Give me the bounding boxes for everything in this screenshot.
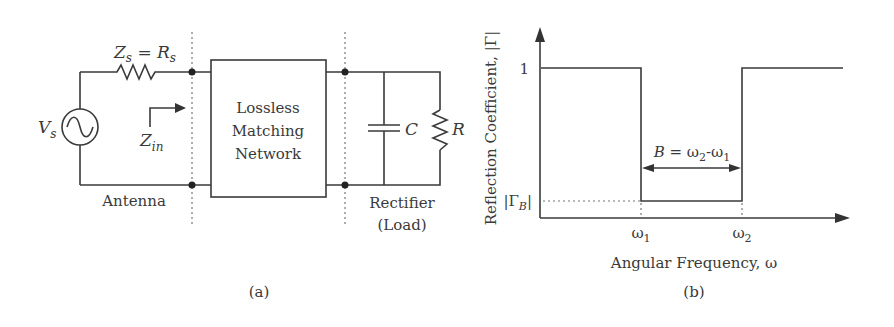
node-dot — [189, 182, 196, 189]
block-label-line3: Network — [235, 145, 302, 163]
node-dot — [342, 182, 349, 189]
zin-arrow-line — [150, 108, 178, 127]
capacitor-label: C — [405, 119, 418, 139]
load-resistor-icon — [433, 110, 447, 150]
bandwidth-label: B = ω2-ω1 — [653, 143, 731, 164]
load-resistor-label: R — [451, 119, 465, 139]
arrowhead-left-icon — [642, 164, 654, 172]
sine-wave-icon — [67, 117, 93, 137]
capacitor-icon — [368, 72, 400, 185]
rectifier-label-line2: (Load) — [377, 216, 426, 234]
x-axis-arrow-icon — [835, 213, 850, 223]
block-label-line1: Lossless — [236, 99, 299, 117]
panel-b-chart — [535, 27, 850, 223]
source-impedance-label: Zs = Rs — [113, 42, 176, 65]
panel-b-caption: (b) — [683, 283, 704, 301]
y-axis-arrow-icon — [535, 27, 545, 42]
figure-canvas: Zs = Rs Vs Zin Lossless Matching Network… — [0, 0, 894, 327]
y-axis-label: Reflection Coefficient, |Γ| — [482, 31, 500, 225]
y-tick-gamma-b: |ΓB| — [503, 192, 532, 213]
x-tick-w1: ω1 — [631, 224, 650, 245]
y-tick-one: 1 — [519, 60, 529, 78]
block-label-line2: Matching — [232, 122, 305, 140]
reflection-curve — [541, 68, 843, 201]
x-axis-label: Angular Frequency, ω — [610, 254, 777, 272]
node-dot — [342, 69, 349, 76]
zin-label: Zin — [139, 130, 163, 154]
rectifier-label-line1: Rectifier — [369, 194, 435, 212]
source-voltage-label: Vs — [38, 117, 56, 141]
zin-arrowhead-icon — [175, 103, 186, 113]
node-dot — [189, 69, 196, 76]
panel-a-caption: (a) — [249, 283, 270, 301]
antenna-label: Antenna — [101, 192, 166, 210]
load-wires — [326, 72, 440, 185]
x-tick-w2: ω2 — [732, 224, 751, 245]
arrowhead-right-icon — [729, 164, 741, 172]
